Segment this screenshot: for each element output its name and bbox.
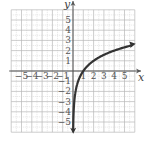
log-graph: xy −5−4−3−2−11234554321−1−2−3−4−5 <box>0 0 145 141</box>
y-tick-label: −3 <box>58 97 72 107</box>
x-tick-label: 4 <box>111 71 117 81</box>
y-tick-label: 1 <box>65 56 71 66</box>
y-tick-label: 2 <box>65 46 71 56</box>
y-tick-label: 3 <box>65 35 71 45</box>
function-curve <box>70 41 136 133</box>
y-tick-label: −1 <box>58 76 71 86</box>
y-axis-label: y <box>63 0 71 11</box>
y-tick-label: 4 <box>65 25 71 35</box>
y-tick-label: −5 <box>58 117 72 127</box>
y-tick-label: −2 <box>58 86 71 96</box>
y-tick-label: 5 <box>65 15 71 25</box>
x-tick-label: 5 <box>122 71 128 81</box>
x-tick-label: 2 <box>91 71 97 81</box>
x-axis-label: x <box>138 71 145 84</box>
x-tick-label: 3 <box>101 71 107 81</box>
y-tick-label: −4 <box>58 107 72 117</box>
